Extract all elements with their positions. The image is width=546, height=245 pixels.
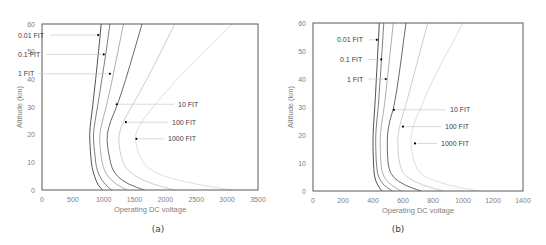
annotation-marker-dot: [376, 39, 378, 41]
annotation-label: 0.01 FIT: [337, 36, 364, 43]
y-tick-label: 40: [298, 76, 306, 83]
annotation-label: 1 FIT: [347, 76, 364, 83]
x-tick-label: 200: [337, 197, 349, 204]
y-tick-label: 20: [298, 132, 306, 139]
chart-b-svg: 01020304050600200400600800100012001400Op…: [0, 0, 546, 245]
annotation-label: 100 FIT: [445, 123, 470, 130]
y-tick-label: 50: [298, 48, 306, 55]
x-axis-label: Operating DC voltage: [382, 206, 454, 215]
y-tick-label: 60: [298, 20, 306, 27]
series-line-1-fit: [380, 23, 401, 191]
x-tick-label: 1400: [515, 197, 531, 204]
annotation-marker-dot: [414, 142, 416, 144]
annotation-marker-dot: [402, 126, 404, 128]
plot-area-frame: [313, 23, 523, 191]
annotation-label: 1000 FIT: [441, 140, 470, 147]
x-tick-label: 400: [367, 197, 379, 204]
x-tick-label: 0: [311, 197, 315, 204]
y-tick-label: 30: [298, 104, 306, 111]
annotation-label: 0.1 FIT: [340, 56, 363, 63]
annotation-label: 10 FIT: [450, 106, 471, 113]
y-axis-label: Altitude (km): [286, 85, 295, 128]
x-tick-label: 600: [397, 197, 409, 204]
y-tick-label: 0: [302, 188, 306, 195]
annotation-marker-dot: [393, 109, 395, 111]
x-tick-label: 1000: [455, 197, 471, 204]
annotation-marker-dot: [385, 78, 387, 80]
series-line-0-01-fit: [373, 23, 382, 191]
y-tick-label: 10: [298, 160, 306, 167]
panel-caption: (b): [392, 224, 405, 234]
x-tick-label: 1200: [485, 197, 501, 204]
chart-panel-b: 01020304050600200400600800100012001400Op…: [0, 0, 273, 245]
annotation-marker-dot: [380, 58, 382, 60]
x-tick-label: 800: [427, 197, 439, 204]
